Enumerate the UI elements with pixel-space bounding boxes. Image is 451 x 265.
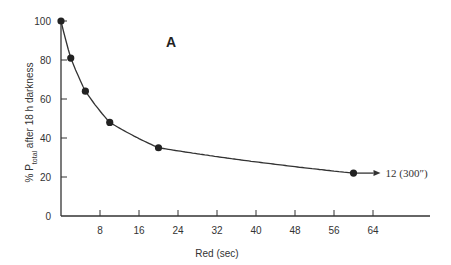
- x-tick-label: 24: [172, 225, 184, 236]
- arrow-head-icon: [374, 170, 381, 176]
- y-tick-label: 100: [34, 16, 51, 27]
- y-tick-label: 20: [40, 172, 52, 183]
- data-point: [57, 17, 64, 24]
- y-tick-label: 80: [40, 55, 52, 66]
- x-tick-label: 56: [328, 225, 340, 236]
- y-tick-label: 60: [40, 94, 52, 105]
- data-point: [106, 119, 113, 126]
- y-axis-title: % Ptotal after 18 h darkness: [24, 63, 38, 183]
- x-axis-title: Red (sec): [195, 248, 238, 259]
- x-tick-label: 16: [133, 225, 145, 236]
- y-tick-label: 40: [40, 133, 52, 144]
- x-tick-label: 64: [367, 225, 379, 236]
- y-tick-label: 0: [45, 211, 51, 222]
- panel-label: A: [166, 34, 176, 50]
- x-tick-label: 32: [211, 225, 223, 236]
- data-point: [82, 88, 89, 95]
- x-tick-label: 40: [250, 225, 262, 236]
- data-point: [67, 54, 74, 61]
- fit-curve: [61, 21, 354, 173]
- annotation-label: 12 (300″): [386, 167, 428, 180]
- data-point: [155, 144, 162, 151]
- chart: 020406080100816243240485664Red (sec)% Pt…: [0, 0, 451, 265]
- x-tick-label: 48: [289, 225, 301, 236]
- x-tick-label: 8: [97, 225, 103, 236]
- data-point: [350, 170, 357, 177]
